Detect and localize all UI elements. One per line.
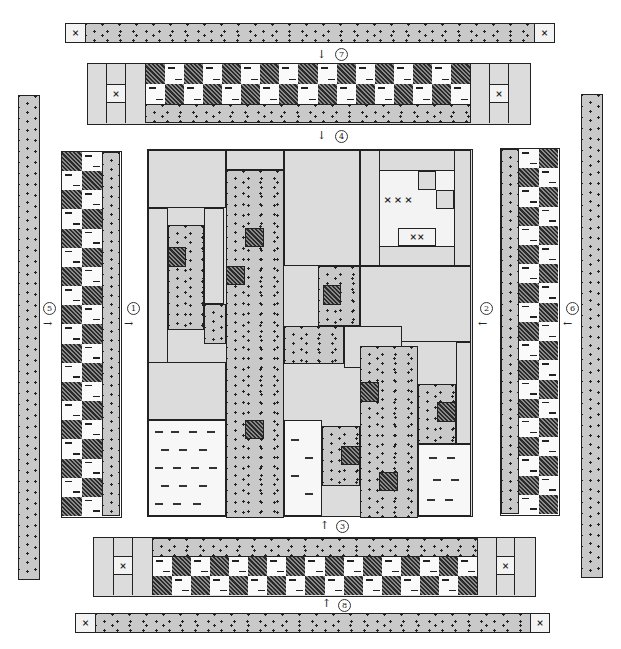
step-5-label: 5	[43, 302, 56, 315]
light-patch	[284, 150, 360, 266]
star-block: ××× ××	[379, 170, 455, 247]
framed-block: ××× ××	[360, 150, 471, 266]
step-8-label: 8	[338, 599, 351, 612]
left-checker-border	[61, 151, 122, 518]
dashed-patch	[284, 420, 322, 516]
corner-block-left: ×	[88, 64, 145, 123]
top-checker-border: × ×	[87, 63, 531, 125]
bottom-checker-border: × ×	[93, 537, 536, 597]
dotted-strip	[102, 152, 120, 516]
checkerboard	[145, 64, 471, 104]
corner-square-bottom-left: ×	[75, 613, 96, 633]
corner-block-left: ×	[94, 538, 152, 595]
corner-square-top-right: ×	[534, 23, 555, 43]
dotted-strip	[85, 23, 535, 43]
corner-block-right: ×	[478, 538, 534, 595]
checkerboard	[519, 149, 558, 514]
light-patch	[204, 208, 224, 304]
arrow-right-icon: →	[124, 318, 133, 329]
checkerboard	[152, 557, 478, 595]
arrow-down-icon: ↓	[317, 130, 326, 141]
arrow-right-icon: →	[43, 318, 52, 329]
dashed-patch	[418, 444, 471, 516]
center-quilt-panel: ××× ××	[147, 149, 473, 517]
hatched-patch	[323, 285, 341, 305]
arrow-down-icon: ↓	[317, 49, 326, 60]
hatched-patch	[379, 472, 398, 491]
corner-square-top-left: ×	[65, 23, 86, 43]
dotted-patch	[284, 326, 344, 364]
dotted-patch	[168, 225, 204, 330]
cross-square: ×	[496, 556, 515, 575]
step-4-label: 4	[335, 130, 348, 143]
hatched-patch	[341, 446, 360, 465]
hatched-patch	[245, 228, 264, 247]
dotted-patch	[226, 170, 284, 518]
hatched-patch	[226, 266, 245, 285]
cross-square: ×	[113, 556, 133, 575]
step-6-label: 6	[566, 302, 579, 315]
arrow-up-icon: ↑	[320, 520, 329, 531]
step-1-label: 1	[127, 302, 140, 315]
checkerboard	[62, 152, 102, 516]
left-outer-border	[18, 95, 40, 580]
step-3-label: 3	[336, 520, 349, 533]
cross-square: ×	[489, 84, 509, 103]
dotted-strip	[152, 538, 478, 557]
top-outer-border: × ×	[65, 23, 555, 43]
hatched-patch	[168, 247, 186, 267]
arrow-up-icon: ↑	[322, 598, 331, 609]
step-7-label: 7	[335, 48, 348, 61]
corner-block-right: ×	[471, 64, 529, 123]
dotted-strip	[501, 149, 519, 514]
light-patch	[226, 150, 284, 170]
light-patch	[456, 342, 471, 444]
dotted-strip	[145, 104, 471, 123]
hatched-patch	[360, 382, 379, 402]
light-patch	[148, 362, 226, 420]
cross-square: ×	[106, 84, 126, 103]
hatched-patch	[437, 402, 456, 422]
dotted-patch	[360, 346, 418, 518]
dotted-patch	[204, 304, 226, 344]
right-checker-border	[500, 148, 560, 516]
arrow-left-icon: ←	[478, 318, 487, 329]
dotted-strip	[95, 613, 531, 633]
bottom-outer-border: × ×	[75, 613, 550, 633]
dashed-patch	[148, 420, 226, 516]
hatched-patch	[245, 420, 264, 439]
arrow-left-icon: ←	[563, 318, 572, 329]
corner-square-bottom-right: ×	[530, 613, 550, 633]
step-2-label: 2	[480, 302, 493, 315]
light-patch	[148, 150, 226, 208]
right-outer-border	[581, 94, 603, 578]
